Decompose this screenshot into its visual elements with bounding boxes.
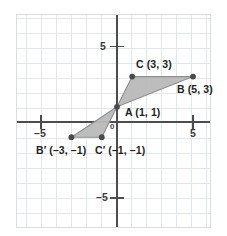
plot-overlay xyxy=(0,0,227,236)
label-point-b: B (5, 3) xyxy=(177,83,213,95)
tick-label-y-neg5: –5 xyxy=(96,191,108,203)
point-B-prime xyxy=(69,134,75,140)
tick-label-x-neg5: –5 xyxy=(34,127,46,139)
coordinate-plane-figure: C (3, 3) B (5, 3) A (1, 1) B′ (–3, –1) C… xyxy=(0,0,227,236)
point-A xyxy=(114,104,120,110)
point-B xyxy=(190,74,196,80)
point-C xyxy=(129,74,135,80)
origin-label: 0 xyxy=(110,122,115,131)
tick-label-y-5: 5 xyxy=(100,40,106,52)
tick-label-x-5: 5 xyxy=(190,127,196,139)
label-point-c-prime: C′ (–1, –1) xyxy=(95,144,145,156)
point-C-prime xyxy=(99,134,105,140)
label-point-c: C (3, 3) xyxy=(136,58,172,70)
label-point-a: A (1, 1) xyxy=(125,106,160,118)
label-point-b-prime: B′ (–3, –1) xyxy=(36,144,86,156)
